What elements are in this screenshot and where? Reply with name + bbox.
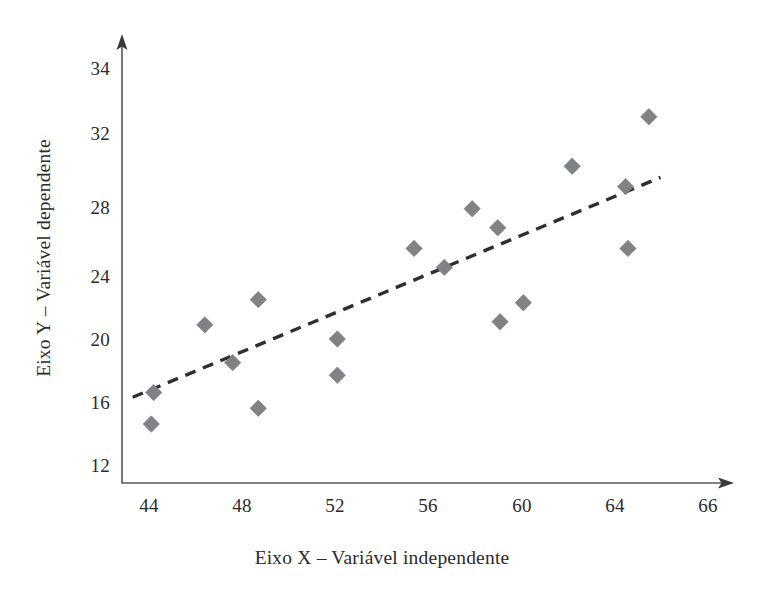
data-point-marker [490,220,506,236]
x-tick-label: 52 [325,496,345,515]
y-tick-label: 24 [90,267,110,286]
data-point-marker [436,259,452,275]
plot-canvas [0,0,764,592]
x-tick-label: 64 [605,496,625,515]
x-tick-label: 44 [139,496,159,515]
data-point-marker [250,400,266,416]
x-tick-label: 56 [418,496,438,515]
x-axis-title: Eixo X – Variável independente [255,547,510,569]
x-tick-label: 48 [232,496,252,515]
data-point-marker [197,317,213,333]
data-point-markers [143,109,657,433]
y-tick-label: 32 [90,124,110,143]
data-point-marker [620,240,636,256]
data-point-marker [515,295,531,311]
regression-line-segment [133,177,661,397]
y-tick-label: 34 [90,59,110,78]
trend-line [133,177,661,397]
axes-group [117,34,735,489]
data-point-marker [492,313,508,329]
data-point-marker [329,367,345,383]
data-point-marker [564,158,580,174]
x-tick-label: 66 [698,496,718,515]
data-point-marker [464,201,480,217]
scatter-plot-figure: 44485256606466 12162024283234 Eixo X – V… [0,0,764,592]
x-tick-label: 60 [512,496,532,515]
data-point-marker [329,331,345,347]
data-point-marker [641,109,657,125]
y-tick-label: 28 [90,198,110,217]
y-tick-label: 20 [90,330,110,349]
data-point-marker [406,240,422,256]
y-axis-title: Eixo Y – Variável dependente [33,139,55,377]
y-tick-label: 12 [90,456,110,475]
data-point-marker [617,178,633,194]
axis-lines [122,46,722,483]
data-point-marker [250,291,266,307]
y-tick-label: 16 [90,393,110,412]
data-point-marker [143,416,159,432]
